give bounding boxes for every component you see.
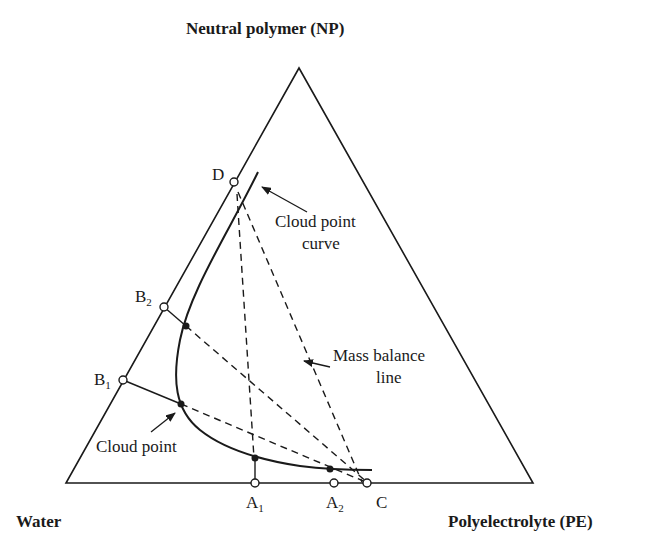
point-b2 <box>160 303 168 311</box>
label-water: Water <box>16 512 62 531</box>
tie-line-d-a1 <box>237 194 254 458</box>
annotation-cloud-point: Cloud point <box>96 437 177 456</box>
point-d <box>230 178 238 186</box>
mass-balance-line <box>238 192 362 482</box>
arrow-cloud-point-curve <box>262 187 307 212</box>
annotation-mass-balance: Mass balance <box>333 346 425 365</box>
label-neutral-polymer: Neutral polymer (NP) <box>186 19 344 38</box>
cloud-point-dot-a1 <box>252 455 259 462</box>
label-d: D <box>212 165 224 184</box>
tie-line-b1 <box>181 404 368 483</box>
label-b2: B2 <box>135 287 152 308</box>
label-a2: A2 <box>326 493 344 514</box>
point-a2 <box>330 479 338 487</box>
cloud-point-dot-a2 <box>327 466 334 473</box>
cloud-point-dot-b2 <box>183 323 190 330</box>
annotation-cloud-point-curve: Cloud point <box>275 212 356 231</box>
annotation-cloud-point-curve-2: curve <box>302 234 340 253</box>
label-c: C <box>376 493 387 512</box>
point-b1 <box>119 376 127 384</box>
point-c <box>363 479 371 487</box>
label-b1: B1 <box>94 370 111 391</box>
label-a1: A1 <box>246 493 264 514</box>
annotation-mass-balance-2: line <box>376 368 402 387</box>
dashed-lines <box>181 192 368 483</box>
point-a1 <box>251 479 259 487</box>
label-polyelectrolyte: Polyelectrolyte (PE) <box>448 512 593 531</box>
ternary-diagram: Neutral polymer (NP) Water Polyelectroly… <box>0 0 651 555</box>
arrow-cloud-point <box>151 413 175 432</box>
arrow-mass-balance <box>304 361 330 367</box>
ternary-triangle <box>66 68 533 483</box>
cloud-point-dot-b1 <box>178 401 185 408</box>
solid-b1-segment <box>123 380 181 404</box>
